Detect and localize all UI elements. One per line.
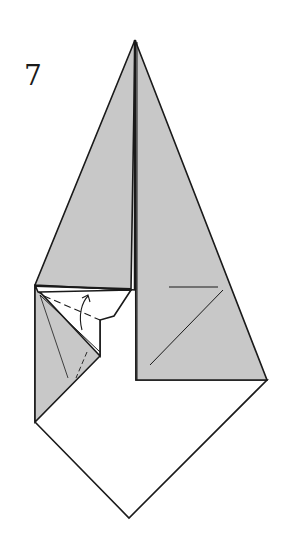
left-gray-flap (35, 40, 135, 290)
origami-diagram (0, 0, 284, 533)
right-gray-flap (135, 40, 267, 380)
